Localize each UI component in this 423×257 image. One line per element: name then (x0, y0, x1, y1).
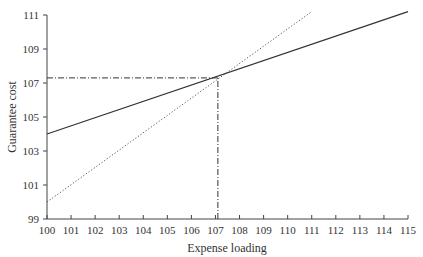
y-tick-label: 109 (23, 43, 40, 55)
x-tick-label: 103 (111, 224, 128, 236)
x-axis-label: Expense loading (187, 241, 267, 255)
x-tick-label: 102 (87, 224, 104, 236)
x-tick-label: 100 (39, 224, 56, 236)
x-tick-label: 111 (304, 224, 320, 236)
y-axis-label: Guarantee cost (5, 81, 19, 153)
x-tick-label: 109 (255, 224, 272, 236)
x-tick-label: 101 (63, 224, 80, 236)
y-tick-label: 103 (23, 145, 40, 157)
x-tick-label: 105 (159, 224, 176, 236)
y-tick-label: 101 (23, 179, 40, 191)
x-tick-label: 110 (280, 224, 297, 236)
dotted-line-series (47, 12, 312, 202)
y-tick-label: 107 (23, 77, 40, 89)
y-tick-label: 111 (23, 9, 39, 21)
solid-line-series (47, 12, 408, 134)
y-tick-label: 99 (28, 213, 40, 225)
chart: 1001011021031041051061071081091101111121… (0, 0, 423, 257)
x-tick-label: 113 (352, 224, 369, 236)
x-tick-label: 107 (207, 224, 224, 236)
y-tick-label: 105 (23, 111, 40, 123)
x-tick-label: 115 (400, 224, 417, 236)
series-group (47, 12, 408, 202)
x-tick-label: 114 (376, 224, 393, 236)
x-tick-label: 106 (183, 224, 200, 236)
x-tick-label: 104 (135, 224, 152, 236)
x-tick-label: 112 (328, 224, 344, 236)
x-tick-label: 108 (231, 224, 248, 236)
reference-lines (47, 78, 218, 219)
